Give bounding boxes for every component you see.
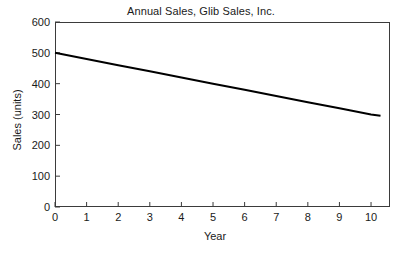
chart-container: Annual Sales, Glib Sales, Inc. 010020030… — [0, 0, 402, 256]
x-tick-label: 0 — [40, 211, 70, 223]
y-tick-label: 500 — [4, 47, 50, 59]
x-tick-label: 6 — [230, 211, 260, 223]
x-tick-label: 10 — [356, 211, 386, 223]
x-tick-label: 7 — [261, 211, 291, 223]
plot-area — [55, 22, 390, 207]
y-tick-label: 600 — [4, 16, 50, 28]
data-line — [55, 53, 381, 116]
x-tick-label: 3 — [135, 211, 165, 223]
y-axis-label: Sales (units) — [11, 60, 23, 180]
x-tick-label: 1 — [72, 211, 102, 223]
x-tick-label: 2 — [103, 211, 133, 223]
x-tick-label: 5 — [198, 211, 228, 223]
x-axis-label: Year — [55, 230, 375, 242]
chart-title: Annual Sales, Glib Sales, Inc. — [0, 5, 402, 17]
x-tick-label: 9 — [324, 211, 354, 223]
x-tick-label: 4 — [166, 211, 196, 223]
x-tick-label: 8 — [293, 211, 323, 223]
x-axis-tick-labels: 012345678910 — [0, 211, 402, 229]
